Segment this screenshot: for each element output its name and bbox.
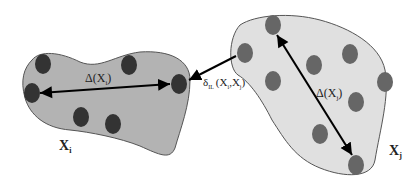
cluster-xi-label: Xi	[59, 138, 72, 155]
diameter-xi-label: Δ(Xi)	[85, 71, 111, 87]
cluster-distance-diagram: Δ(Xi) Δ(Xj) δIL(Xi,Xj) Xi Xj	[0, 0, 419, 187]
diameter-xj-label: Δ(Xj)	[316, 86, 342, 102]
distance-label: δIL(Xi,Xj)	[203, 76, 246, 90]
cluster-xj-label: Xj	[389, 143, 402, 160]
cluster-xj-region	[231, 15, 387, 174]
